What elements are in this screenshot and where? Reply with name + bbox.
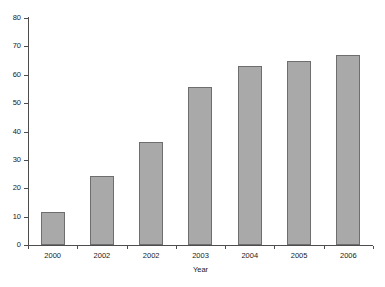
y-axis-tick-label: 40 [0, 128, 21, 136]
plot-area [28, 18, 373, 245]
x-axis-tick-label: 2005 [274, 252, 323, 260]
bar[interactable] [90, 176, 114, 245]
x-axis-tick [324, 246, 325, 249]
x-axis-tick [28, 246, 29, 249]
y-axis-tick-label: 60 [0, 71, 21, 79]
x-axis-tick [274, 246, 275, 249]
x-axis-tick [77, 246, 78, 249]
x-axis-tick-label: 2002 [77, 252, 126, 260]
x-axis-line [28, 245, 373, 246]
y-axis-tick-label: 10 [0, 213, 21, 221]
y-axis-tick-label: 20 [0, 185, 21, 193]
x-axis-tick [373, 246, 374, 249]
y-axis-tick-label: 80 [0, 14, 21, 22]
x-axis-tick-label: 2004 [225, 252, 274, 260]
bar[interactable] [41, 212, 65, 245]
y-axis-tick-label: 70 [0, 43, 21, 51]
bar-chart: 01020304050607080 2000200220022003200420… [0, 0, 385, 287]
bar-slot [176, 18, 225, 245]
x-axis-tick-label: 2002 [127, 252, 176, 260]
bar-slot [274, 18, 323, 245]
x-axis-tick [127, 246, 128, 249]
bar[interactable] [188, 87, 212, 245]
x-axis-title: Year [28, 266, 373, 274]
bar[interactable] [238, 66, 262, 245]
bar[interactable] [287, 61, 311, 245]
x-axis-tick [176, 246, 177, 249]
bar-slot [225, 18, 274, 245]
bar-slot [127, 18, 176, 245]
bar-slot [28, 18, 77, 245]
x-axis-tick-label: 2003 [176, 252, 225, 260]
x-axis-tick [225, 246, 226, 249]
bar[interactable] [139, 142, 163, 245]
y-axis-tick-label: 0 [0, 241, 21, 249]
bar-slot [77, 18, 126, 245]
y-axis-tick-label: 50 [0, 99, 21, 107]
x-axis-tick-label: 2000 [28, 252, 77, 260]
bar[interactable] [336, 55, 360, 245]
y-axis-tick-label: 30 [0, 156, 21, 164]
x-axis-tick-label: 2006 [324, 252, 373, 260]
bar-slot [324, 18, 373, 245]
